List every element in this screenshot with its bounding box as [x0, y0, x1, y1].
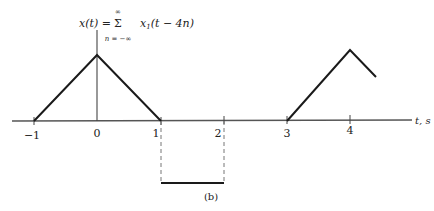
tick-label-3: 3	[284, 127, 291, 140]
equation-upper-limit: ∞	[115, 8, 121, 16]
tick-label-4: 4	[347, 124, 354, 137]
tick-label-1: 1	[153, 127, 160, 140]
signal-plot: −1 0 1 2 3 4 t, s x(t) = ∞ Σ n = −∞ x1(t…	[0, 0, 434, 211]
tick-label-2: 2	[215, 127, 222, 140]
figure-caption: (b)	[204, 191, 218, 202]
equation-rhs-x: x1(t − 4n)	[140, 17, 194, 31]
equation-sigma: Σ	[114, 17, 122, 30]
time-axis	[12, 120, 412, 121]
equation-lhs: x(t) =	[79, 17, 111, 30]
tick-label-0: 0	[94, 127, 101, 140]
axis-label-time: t, s	[415, 115, 431, 126]
tick-label-neg1: −1	[24, 129, 40, 142]
triangle-pulse-4	[287, 50, 376, 121]
equation-lower-limit: n = −∞	[105, 35, 132, 43]
